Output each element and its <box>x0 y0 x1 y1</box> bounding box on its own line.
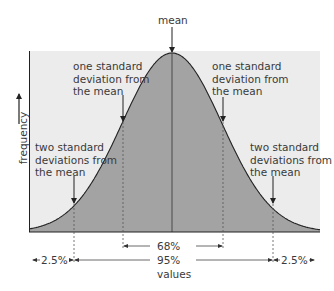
pct-right-tail-label: 2.5% <box>280 254 309 266</box>
two-sd-right-label: two standard deviations from the mean <box>250 141 332 179</box>
pct-68-label: 68% <box>156 240 181 252</box>
mean-label: mean <box>158 14 188 27</box>
pct-95-label: 95% <box>156 254 181 266</box>
one-sd-right-label: one standard deviation from the mean <box>212 60 289 98</box>
frequency-axis-label: frequency <box>17 103 29 173</box>
values-axis-label: values <box>157 268 191 281</box>
one-sd-left-label: one standard deviation from the mean <box>73 60 150 98</box>
two-sd-left-label: two standard deviations from the mean <box>35 141 117 179</box>
pct-left-tail-label: 2.5% <box>40 254 69 266</box>
